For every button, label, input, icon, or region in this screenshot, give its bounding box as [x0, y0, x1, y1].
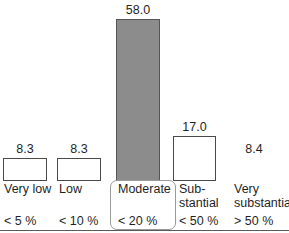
bar-value-moderate: 58.0 [116, 4, 160, 17]
category-label-area: Very low < 5 % Low < 10 % Moderate < 20 … [0, 181, 289, 233]
category-label-substantial: Sub- stantial [179, 182, 219, 210]
range-label-moderate: < 20 % [118, 214, 157, 228]
bar-value-substantial: 17.0 [173, 121, 216, 134]
plot-area: 8.3 8.3 58.0 17.0 8.4 [0, 0, 289, 181]
category-label-low: Low [59, 182, 82, 196]
range-label-substantial: < 50 % [179, 214, 218, 228]
bar-low[interactable] [57, 158, 101, 181]
range-label-very-substantial: > 50 % [234, 214, 273, 228]
range-label-low: < 10 % [59, 214, 98, 228]
bottom-axis-rule [0, 230, 289, 231]
bar-very-substantial[interactable] [232, 158, 276, 181]
bar-very-low[interactable] [3, 158, 47, 181]
bar-group-very-low: 8.3 [3, 158, 47, 181]
category-label-very-low: Very low [4, 182, 51, 196]
bar-value-low: 8.3 [57, 143, 101, 156]
range-label-very-low: < 5 % [4, 214, 36, 228]
bar-group-substantial: 17.0 [173, 136, 216, 181]
bar-value-very-substantial: 8.4 [232, 143, 276, 156]
bar-chart-figure: . 8.3 8.3 58.0 17.0 8.4 V [0, 0, 289, 233]
category-column-substantial[interactable]: Sub- stantial < 50 % [179, 181, 231, 233]
category-label-very-substantial: Very substantial [234, 182, 289, 210]
bar-value-very-low: 8.3 [3, 143, 47, 156]
category-column-moderate[interactable]: Moderate < 20 % [118, 181, 176, 233]
bar-group-low: 8.3 [57, 158, 101, 181]
category-column-low[interactable]: Low < 10 % [59, 181, 111, 233]
category-label-moderate: Moderate [118, 182, 171, 196]
bar-group-moderate: 58.0 [116, 19, 160, 181]
bar-moderate[interactable] [116, 19, 160, 181]
category-column-very-substantial[interactable]: Very substantial > 50 % [234, 181, 289, 233]
bar-substantial[interactable] [173, 136, 216, 181]
category-column-very-low[interactable]: Very low < 5 % [4, 181, 60, 233]
bar-group-very-substantial: 8.4 [232, 158, 276, 181]
